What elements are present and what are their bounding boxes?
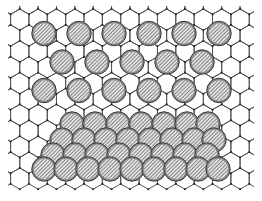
lattice-vertex: [248, 45, 250, 47]
lattice-vertex: [56, 40, 58, 42]
lattice-vertex: [230, 56, 232, 58]
lattice-vertex: [56, 188, 58, 190]
lattice-vertex: [212, 13, 214, 15]
lattice-vertex: [92, 104, 94, 106]
lattice-vertex: [28, 109, 30, 111]
particle-hatch: [69, 23, 89, 43]
lattice-vertex: [19, 29, 21, 31]
cluster-particle: [76, 157, 100, 181]
lattice-vertex: [248, 141, 250, 143]
lattice-vertex: [28, 45, 30, 47]
lattice-vertex: [46, 119, 48, 121]
lattice-vertex: [92, 188, 94, 190]
lattice-vertex: [10, 13, 12, 15]
lattice-vertex: [101, 13, 103, 15]
lattice-vertex: [92, 8, 94, 10]
lattice-vertex: [221, 104, 223, 106]
lattice-vertex: [19, 8, 21, 10]
lattice-vertex: [212, 109, 214, 111]
lattice-vertex: [202, 29, 204, 31]
lattice-vertex: [166, 104, 168, 106]
lattice-vertex: [193, 13, 195, 15]
lattice-vertex: [239, 125, 241, 127]
particle-hatch: [104, 23, 124, 43]
lattice-vertex: [202, 104, 204, 106]
lattice-vertex: [157, 13, 159, 15]
lattice-vertex: [157, 109, 159, 111]
particle-hatch: [34, 23, 54, 43]
particle-hatch: [78, 159, 98, 179]
lattice-vertex: [230, 24, 232, 26]
ordered-particle: [137, 21, 161, 45]
lattice-vertex: [120, 13, 122, 15]
particle-hatch: [157, 52, 177, 72]
lattice-vertex: [28, 24, 30, 26]
lattice-vertex: [129, 93, 131, 95]
lattice-vertex: [83, 183, 85, 185]
lattice-vertex: [138, 45, 140, 47]
cluster-particle: [120, 157, 144, 181]
lattice-vertex: [184, 104, 186, 106]
lattice-vertex: [138, 77, 140, 79]
cluster-particle: [142, 157, 166, 181]
lattice-vertex: [193, 45, 195, 47]
lattice-vertex: [65, 45, 67, 47]
lattice-vertex: [10, 56, 12, 58]
lattice-vertex: [83, 77, 85, 79]
lattice-vertex: [19, 135, 21, 137]
lattice-vertex: [175, 45, 177, 47]
lattice-vertex: [184, 72, 186, 74]
lattice-vertex: [46, 13, 48, 15]
lattice-vertex: [166, 188, 168, 190]
lattice-vertex: [239, 93, 241, 95]
lattice-vertex: [19, 125, 21, 127]
lattice-vertex: [248, 172, 250, 174]
lattice-vertex: [111, 104, 113, 106]
lattice-vertex: [248, 109, 250, 111]
lattice-vertex: [248, 56, 250, 58]
lattice-vertex: [92, 29, 94, 31]
lattice-vertex: [10, 45, 12, 47]
lattice-vertex: [46, 109, 48, 111]
lattice-vertex: [56, 125, 58, 127]
cluster-particle: [164, 157, 188, 181]
lattice-vertex: [157, 45, 159, 47]
lattice-vertex: [212, 183, 214, 185]
lattice-vertex: [166, 40, 168, 42]
lattice-vertex: [19, 61, 21, 63]
lattice-vertex: [248, 88, 250, 90]
lattice-vertex: [46, 56, 48, 58]
particle-hatch: [34, 159, 54, 179]
particle-hatch: [34, 80, 54, 100]
lattice-vertex: [19, 93, 21, 95]
lattice-vertex: [74, 72, 76, 74]
lattice-vertex: [239, 104, 241, 106]
particle-hatch: [52, 52, 72, 72]
lattice-vertex: [101, 45, 103, 47]
lattice-vertex: [193, 109, 195, 111]
lattice-vertex: [19, 40, 21, 42]
lattice-vertex: [10, 172, 12, 174]
lattice-vertex: [28, 151, 30, 153]
lattice-vertex: [239, 167, 241, 169]
lattice-vertex: [10, 77, 12, 79]
lattice-vertex: [28, 13, 30, 15]
lattice-vertex: [239, 29, 241, 31]
lattice-vertex: [19, 104, 21, 106]
lattice-vertex: [147, 104, 149, 106]
lattice-vertex: [129, 104, 131, 106]
particle-hatch: [174, 80, 194, 100]
lattice-vertex: [221, 188, 223, 190]
particle-hatch: [69, 80, 89, 100]
lattice-vertex: [212, 77, 214, 79]
lattice-vertex: [10, 151, 12, 153]
particle-hatch: [166, 159, 186, 179]
lattice-vertex: [248, 183, 250, 185]
lattice-vertex: [193, 77, 195, 79]
lattice-vertex: [175, 77, 177, 79]
lattice-vertex: [56, 8, 58, 10]
particle-hatch: [209, 80, 229, 100]
lattice-vertex: [239, 135, 241, 137]
lattice-vertex: [83, 56, 85, 58]
lattice-vertex: [212, 45, 214, 47]
